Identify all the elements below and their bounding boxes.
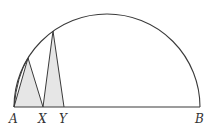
label-a: A [8, 112, 18, 126]
label-x: X [37, 112, 47, 126]
label-y: Y [59, 112, 68, 126]
semicircle-arc [14, 14, 200, 107]
semicircle-diagram: A X Y B [0, 0, 213, 128]
shaded-triangle-xqy [43, 31, 64, 107]
label-b: B [194, 112, 204, 126]
